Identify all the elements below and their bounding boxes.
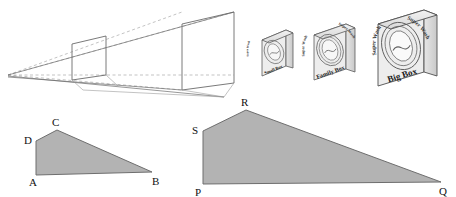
diagram-svg: Super Wash Small Box Super Wash Super Wa… [0,0,456,197]
pqrs-shape [203,110,441,184]
family-box: Super Wash Super Wash Family Box [294,17,364,80]
near-rectangle [72,36,106,80]
quadrilateral-abcd: A B C D [24,116,159,188]
vertex-label-d: D [24,134,32,146]
vertex-label-s: S [192,124,198,136]
small-box-brand: Super Wash [240,39,256,58]
big-box-side [424,10,437,76]
perspective-cone [8,12,234,97]
quadrilateral-pqrs: P Q R S [192,96,447,197]
cone-edges [8,12,234,97]
vertex-label-c: C [52,116,59,128]
figure-canvas: Super Wash Small Box Super Wash Super Wa… [0,0,456,197]
family-box-brand: Super Wash [294,32,315,57]
far-rectangle [182,12,234,90]
vertex-label-b: B [152,175,159,187]
vertex-label-a: A [29,176,37,188]
small-box: Super Wash Small Box [240,29,293,76]
vertex-label-q: Q [439,185,447,197]
vertex-label-p: P [195,186,201,197]
far-rectangle-base [83,83,234,97]
vanishing-construction-lines [8,12,234,90]
abcd-shape [36,130,152,175]
big-box: Super Wash Super Wash Big Box [363,10,438,86]
vertex-label-r: R [241,96,249,108]
